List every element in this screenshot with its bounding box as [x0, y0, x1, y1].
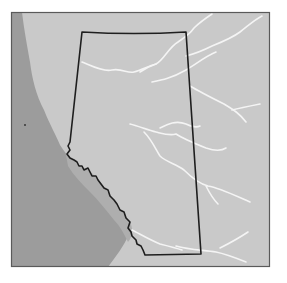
map-speck [24, 124, 26, 126]
alberta-map [0, 0, 287, 283]
